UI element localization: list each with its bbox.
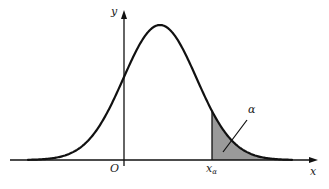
shaded-tail-area [212,111,292,160]
critical-value-label: xα [206,163,217,176]
origin-label: O [110,163,119,174]
y-axis-arrow-icon [121,10,127,19]
normal-curve-plot [0,0,329,189]
y-axis-label: y [111,6,117,17]
critical-value-subscript: α [212,168,217,176]
x-axis-label: x [310,166,316,177]
x-axis-arrow-icon [309,157,318,163]
density-curve [28,25,292,160]
tail-area-label: α [248,104,255,115]
diagram-canvas: y x O xα α [0,0,329,189]
